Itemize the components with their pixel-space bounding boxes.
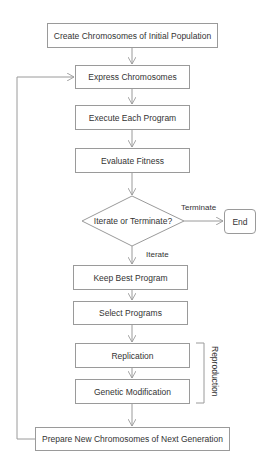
keep-best-program-box: Keep Best Program: [73, 265, 188, 290]
evaluate-fitness-box: Evaluate Fitness: [75, 148, 190, 173]
create-initial-population-box: Create Chromosomes of Initial Population: [47, 23, 218, 48]
select-programs-box: Select Programs: [73, 301, 188, 325]
terminate-edge-label: Terminate: [181, 203, 216, 212]
end-box: End: [224, 209, 256, 234]
prepare-next-generation-box: Prepare New Chromosomes of Next Generati…: [35, 427, 230, 451]
decision-label: Iterate or Terminate?: [94, 216, 172, 226]
replication-box: Replication: [75, 343, 190, 368]
genetic-modification-box: Genetic Modification: [75, 379, 190, 404]
iterate-edge-label: Iterate: [146, 250, 169, 259]
execute-program-box: Execute Each Program: [75, 105, 190, 130]
express-chromosomes-box: Express Chromosomes: [75, 65, 190, 89]
reproduction-group-label: Reproduction: [210, 346, 220, 397]
